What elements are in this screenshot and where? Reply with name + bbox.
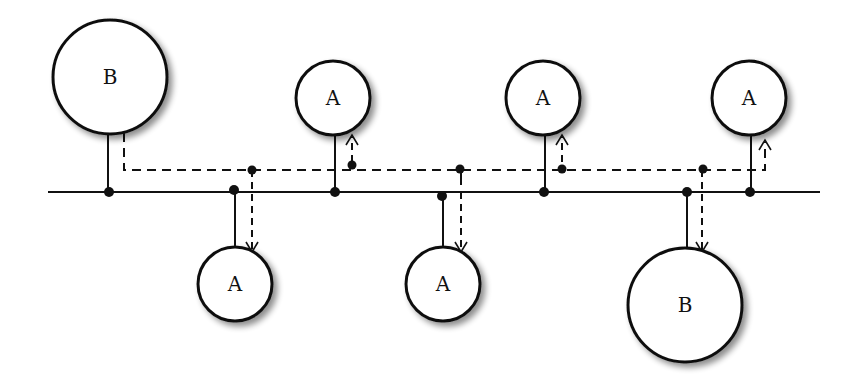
signal-connectors — [252, 137, 702, 250]
arrow-up-icon — [759, 140, 771, 150]
node-label: A — [325, 86, 341, 110]
bus-network-diagram: B A A A A A B — [0, 0, 863, 388]
junction-dots — [104, 161, 755, 202]
node-label: B — [103, 65, 118, 89]
node-label: A — [227, 272, 243, 296]
arrowheads — [246, 135, 771, 252]
signal-line — [124, 133, 765, 170]
node-label: B — [678, 293, 693, 317]
node-label: A — [535, 86, 551, 110]
node-label: A — [435, 272, 451, 296]
node-label: A — [741, 86, 757, 110]
